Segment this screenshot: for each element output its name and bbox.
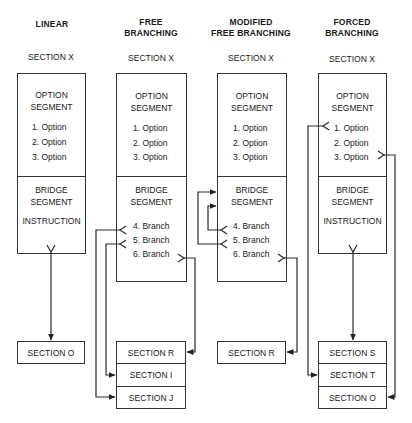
branch-point-icon <box>323 122 329 130</box>
branch-point-icon <box>378 151 384 159</box>
branch-point-icon <box>47 245 55 252</box>
arrow-branch6-to-section-r <box>184 258 195 352</box>
arrow-branch4-to-section-j <box>96 230 120 397</box>
connector-lines <box>0 0 412 423</box>
arrow-branch5-loop-back <box>198 192 221 244</box>
branch-point-icon <box>349 245 357 252</box>
arrow-branch5-to-section-i <box>106 244 120 375</box>
branch-point-icon <box>178 254 184 262</box>
branch-point-icon <box>221 226 227 234</box>
branch-point-icon <box>120 226 126 234</box>
branch-point-icon <box>278 254 284 262</box>
arrow-option3-to-section-o <box>384 155 395 397</box>
arrow-branch4-loop-back <box>208 206 221 230</box>
branch-point-icon <box>221 240 227 248</box>
branch-point-icon <box>120 240 126 248</box>
arrow-branch6-to-section-r <box>284 258 297 352</box>
arrow-option1-to-section-t <box>308 126 323 375</box>
